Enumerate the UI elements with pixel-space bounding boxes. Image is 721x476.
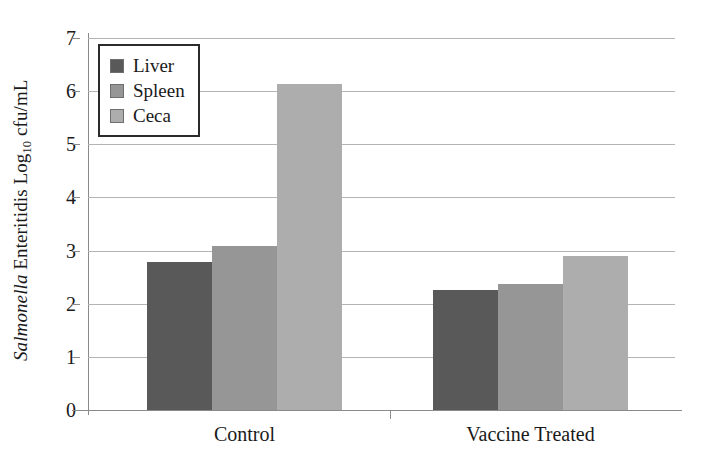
gridline-0 xyxy=(88,410,675,411)
legend-swatch-ceca-icon xyxy=(110,109,124,123)
y-tick-label-2: 2 xyxy=(40,294,76,314)
y-tick-label-3: 3 xyxy=(40,241,76,261)
legend-swatch-spleen-icon xyxy=(110,84,124,98)
legend-swatch-liver-icon xyxy=(110,59,124,73)
legend-label-spleen: Spleen xyxy=(133,81,185,100)
bar-control-spleen xyxy=(212,246,277,410)
y-axis-title-units: cfu/mL xyxy=(11,79,32,140)
y-tick-mark-2 xyxy=(72,304,80,305)
legend-item-spleen: Spleen xyxy=(110,78,185,103)
y-tick-label-0: 0 xyxy=(40,400,76,420)
y-axis-title-subscript: 10 xyxy=(20,141,34,154)
x-axis-center-tick xyxy=(390,410,391,419)
y-axis-title-genus: Salmonella xyxy=(11,274,32,361)
legend-label-ceca: Ceca xyxy=(133,106,171,125)
chart-legend: LiverSpleenCeca xyxy=(98,44,200,137)
y-tick-label-7: 7 xyxy=(40,28,76,48)
y-tick-label-1: 1 xyxy=(40,347,76,367)
y-tick-mark-6 xyxy=(72,91,80,92)
bar-control-ceca xyxy=(277,84,342,410)
y-tick-mark-7 xyxy=(72,38,80,39)
bar-chart-figure: Salmonella Enteritidis Log10 cfu/mL 7654… xyxy=(0,0,721,476)
bar-vaccine-treated-spleen xyxy=(498,284,563,410)
y-tick-mark-3 xyxy=(72,251,80,252)
legend-item-liver: Liver xyxy=(110,53,185,78)
y-axis-title: Salmonella Enteritidis Log10 cfu/mL xyxy=(11,79,36,360)
x-tick-label-vaccine-treated: Vaccine Treated xyxy=(381,424,681,444)
bar-vaccine-treated-liver xyxy=(433,290,498,410)
y-tick-mark-1 xyxy=(72,357,80,358)
y-tick-mark-4 xyxy=(72,197,80,198)
y-axis-title-species: Enteritidis Log xyxy=(11,153,32,274)
legend-label-liver: Liver xyxy=(133,56,174,75)
y-tick-label-4: 4 xyxy=(40,187,76,207)
y-tick-label-6: 6 xyxy=(40,81,76,101)
legend-item-ceca: Ceca xyxy=(110,103,185,128)
y-tick-mark-5 xyxy=(72,144,80,145)
bar-control-liver xyxy=(147,262,212,410)
x-tick-label-control: Control xyxy=(95,424,395,444)
bar-vaccine-treated-ceca xyxy=(563,256,628,410)
y-tick-label-5: 5 xyxy=(40,134,76,154)
y-axis-tick-labels: 76543210 xyxy=(36,38,76,410)
y-tick-mark-0 xyxy=(72,410,80,411)
